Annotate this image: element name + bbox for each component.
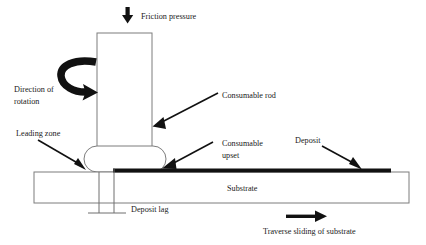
label-consumable-rod: Consumable rod	[222, 91, 276, 100]
diagram-canvas: Friction pressure Direction of rotation …	[0, 0, 426, 245]
consumable-rod-shape	[97, 33, 152, 152]
consumable-upset-shape	[84, 146, 166, 172]
pointer-arrow-deposit	[322, 146, 362, 170]
pointer-arrow-leading-zone	[38, 140, 86, 170]
label-traverse-sliding: Traverse sliding of substrate	[263, 227, 356, 236]
label-deposit: Deposit	[295, 136, 321, 145]
rightward-arrow-icon	[286, 211, 327, 223]
label-direction-of-rotation-line1: Direction of	[14, 85, 54, 94]
curved-rotation-arrow-icon	[61, 61, 98, 101]
pointer-arrow-consumable-upset	[162, 142, 213, 169]
down-arrow-icon	[122, 7, 133, 24]
label-consumable-upset-line1: Consumable	[222, 139, 263, 148]
label-friction-pressure: Friction pressure	[141, 12, 197, 21]
label-substrate: Substrate	[227, 184, 258, 193]
friction-surfacing-diagram: Friction pressure Direction of rotation …	[0, 0, 426, 245]
label-direction-of-rotation-line2: rotation	[14, 97, 39, 106]
deposit-layer-shape	[113, 169, 391, 173]
label-deposit-lag: Deposit lag	[131, 205, 169, 214]
substrate-shape	[34, 172, 409, 203]
pointer-arrow-consumable-rod	[153, 93, 219, 129]
label-leading-zone: Leading zone	[16, 129, 61, 138]
label-consumable-upset-line2: upset	[222, 151, 240, 160]
